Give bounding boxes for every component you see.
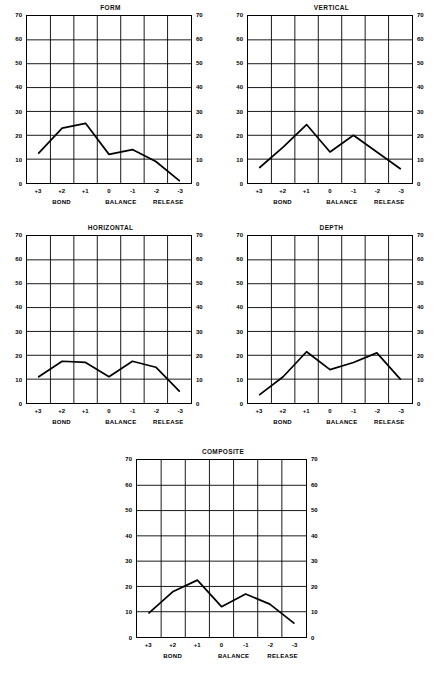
chart-panel-horizontal: HORIZONTAL001010202030304040505060607070… [4,224,217,436]
x-axis-tick-label: -3 [168,408,192,414]
y-axis-tick-label-right: 10 [417,377,438,383]
y-axis-tick-label-right: 40 [417,84,438,90]
y-axis-tick-label-right: 70 [196,232,217,238]
y-axis-tick-label-right: 10 [196,157,217,163]
chart-title: HORIZONTAL [4,224,217,231]
x-axis-tick-label: +3 [247,188,271,194]
y-axis-tick-label-right: 70 [417,12,438,18]
y-axis-tick-label-right: 60 [196,256,217,262]
gridlines [27,16,191,183]
y-axis-tick-label-right: 0 [417,401,438,407]
y-axis-tick-label-right: 10 [196,377,217,383]
gridlines [137,460,306,637]
y-axis-tick-label-right: 50 [311,507,332,513]
y-axis-tick-label-right: 60 [311,482,332,488]
y-axis-tick-label-right: 30 [196,109,217,115]
data-series-line [260,125,401,169]
y-axis-tick-label-left: 60 [225,256,243,262]
x-axis-tick-label: 0 [97,408,121,414]
y-axis-tick-label-right: 30 [417,329,438,335]
y-axis-tick-label-left: 50 [114,507,132,513]
x-axis-tick-label: +1 [185,642,209,648]
y-axis-tick-label-right: 70 [417,232,438,238]
y-axis-tick-label-left: 10 [4,377,22,383]
y-axis-tick-label-right: 50 [196,60,217,66]
y-axis-tick-label-left: 40 [4,84,22,90]
x-axis-group-label-bond: BOND [30,419,94,425]
gridlines [248,16,412,183]
y-axis-tick-label-right: 60 [196,36,217,42]
y-axis-tick-label-left: 10 [225,157,243,163]
chart-title: COMPOSITE [114,448,332,455]
y-axis-tick-label-left: 30 [4,109,22,115]
y-axis-tick-label-right: 20 [417,353,438,359]
x-axis-tick-label: -1 [121,188,145,194]
multi-panel-line-chart-figure: FORM001010202030304040505060607070+3+2+1… [0,0,442,675]
y-axis-tick-label-left: 0 [4,401,22,407]
y-axis-tick-label-right: 30 [196,329,217,335]
y-axis-tick-label-right: 10 [417,157,438,163]
y-axis-tick-label-left: 70 [4,12,22,18]
y-axis-tick-label-right: 10 [311,609,332,615]
plot-area [26,15,192,184]
x-axis-group-label-bond: BOND [30,199,94,205]
x-axis-tick-label: -2 [366,188,390,194]
x-axis-tick-label: -2 [366,408,390,414]
y-axis-tick-label-left: 70 [114,456,132,462]
data-series-line [39,123,180,180]
y-axis-tick-label-left: 20 [4,353,22,359]
x-axis-group-label-release: RELEASE [357,199,421,205]
x-axis-tick-label: +1 [294,188,318,194]
y-axis-tick-label-right: 30 [417,109,438,115]
x-axis-tick-label: -3 [389,408,413,414]
y-axis-tick-label-left: 50 [4,60,22,66]
x-axis-tick-label: +2 [160,642,184,648]
y-axis-tick-label-left: 10 [4,157,22,163]
y-axis-tick-label-left: 30 [225,109,243,115]
y-axis-tick-label-left: 50 [225,280,243,286]
y-axis-tick-label-left: 20 [225,133,243,139]
y-axis-tick-label-right: 70 [311,456,332,462]
x-axis-tick-label: -3 [389,188,413,194]
y-axis-tick-label-left: 60 [4,256,22,262]
x-axis-group-label-release: RELEASE [136,419,200,425]
x-axis-tick-label: 0 [209,642,233,648]
x-axis-tick-label: +2 [50,408,74,414]
x-axis-group-label-bond: BOND [141,653,205,659]
x-axis-group-label-bond: BOND [251,199,315,205]
x-axis-tick-label: -1 [121,408,145,414]
y-axis-tick-label-right: 0 [196,181,217,187]
x-axis-group-label-release: RELEASE [357,419,421,425]
x-axis-tick-label: -2 [145,188,169,194]
x-axis-tick-label: -1 [342,408,366,414]
y-axis-tick-label-left: 20 [225,353,243,359]
y-axis-tick-label-right: 0 [311,635,332,641]
y-axis-tick-label-left: 0 [4,181,22,187]
x-axis-group-label-release: RELEASE [136,199,200,205]
y-axis-tick-label-right: 30 [311,558,332,564]
x-axis-tick-label: -2 [258,642,282,648]
plot-area [247,15,413,184]
x-axis-tick-label: +1 [73,408,97,414]
plot-area [26,235,192,404]
x-axis-tick-label: -2 [145,408,169,414]
y-axis-tick-label-right: 60 [417,256,438,262]
y-axis-tick-label-left: 40 [114,533,132,539]
chart-panel-form: FORM001010202030304040505060607070+3+2+1… [4,4,217,216]
plot-area [247,235,413,404]
y-axis-tick-label-left: 40 [225,84,243,90]
y-axis-tick-label-left: 50 [225,60,243,66]
y-axis-tick-label-left: 60 [225,36,243,42]
x-axis-tick-label: +1 [294,408,318,414]
chart-title: DEPTH [225,224,438,231]
data-series-line [260,352,401,395]
y-axis-tick-label-right: 50 [417,280,438,286]
y-axis-tick-label-left: 30 [114,558,132,564]
y-axis-tick-label-left: 40 [4,304,22,310]
x-axis-tick-label: +3 [136,642,160,648]
y-axis-tick-label-right: 50 [417,60,438,66]
y-axis-tick-label-right: 40 [417,304,438,310]
chart-panel-vertical: VERTICAL001010202030304040505060607070+3… [225,4,438,216]
chart-panel-depth: DEPTH001010202030304040505060607070+3+2+… [225,224,438,436]
y-axis-tick-label-right: 0 [196,401,217,407]
